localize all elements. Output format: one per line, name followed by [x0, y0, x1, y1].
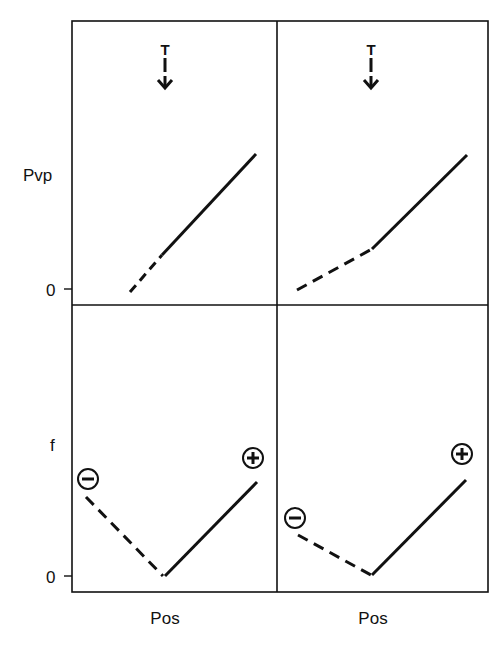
xlabel-left: Pos [150, 609, 179, 628]
curve-top-right-dashed [297, 249, 372, 290]
minus-circle-icon-left [78, 469, 98, 489]
zero-label-top: 0 [46, 281, 55, 300]
curve-top-right-solid [372, 155, 467, 249]
plus-circle-icon-left [243, 448, 263, 468]
svg-text:T: T [366, 41, 375, 58]
figure: Pvp f 0 0 Pos Pos T T [0, 0, 503, 649]
t-arrow-icon-left: T [158, 41, 172, 88]
zero-label-bottom: 0 [46, 568, 55, 587]
plus-circle-icon-right [452, 444, 472, 464]
ylabel-bottom: f [50, 436, 55, 455]
svg-text:T: T [160, 41, 169, 58]
curve-bottom-left-dashed [86, 497, 163, 576]
curve-top-left-solid [162, 154, 256, 255]
curve-bottom-right-dashed [298, 535, 371, 575]
t-arrow-icon-right: T [364, 41, 378, 88]
curve-bottom-right-solid [372, 480, 466, 575]
ylabel-top: Pvp [23, 166, 52, 185]
xlabel-right: Pos [358, 609, 387, 628]
minus-circle-icon-right [285, 508, 305, 528]
curve-bottom-left-solid [165, 482, 257, 576]
figure-frame [72, 21, 488, 592]
curve-top-left-dashed [130, 255, 162, 292]
